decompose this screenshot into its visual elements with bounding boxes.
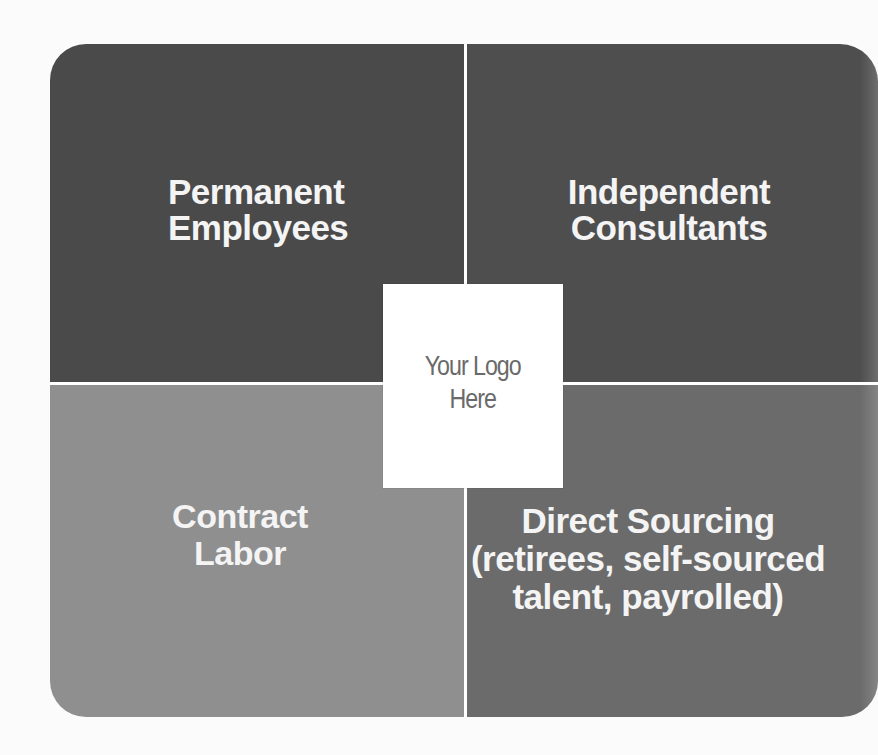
logo-placeholder-text: Your Logo Here <box>425 350 521 416</box>
quadrant-label: Independent Consultants <box>554 174 784 246</box>
quadrant-label: Permanent Employees <box>168 174 348 246</box>
quadrant-label: Contract Labor <box>170 498 310 571</box>
logo-placeholder: Your Logo Here <box>383 284 563 488</box>
quadrant-label: Direct Sourcing (retirees, self-sourced … <box>457 502 839 615</box>
